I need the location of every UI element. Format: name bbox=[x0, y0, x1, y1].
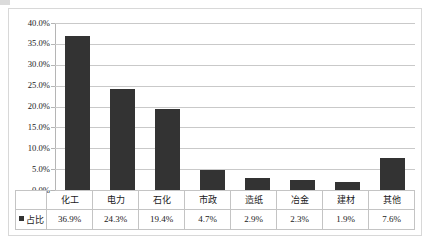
y-axis-tick bbox=[51, 86, 55, 87]
y-axis-tick bbox=[51, 65, 55, 66]
table-row-values: 占比 36.9%24.3%19.4%4.7%2.9%2.3%1.9%7.6% bbox=[16, 210, 415, 230]
y-axis-tick bbox=[51, 169, 55, 170]
y-axis-tick-label: 25.0% bbox=[4, 81, 50, 90]
value-cell: 19.4% bbox=[139, 210, 185, 230]
table-row-categories: 化工电力石化市政造纸冶金建材其他 bbox=[16, 191, 415, 210]
y-axis-tick-label: 35.0% bbox=[4, 39, 50, 48]
y-axis-tick-label: 30.0% bbox=[4, 60, 50, 69]
value-cell: 7.6% bbox=[369, 210, 415, 230]
y-axis-tick-label: 5.0% bbox=[4, 165, 50, 174]
bar bbox=[155, 109, 180, 190]
bar-slot bbox=[100, 23, 145, 190]
y-axis-tick bbox=[51, 127, 55, 128]
data-table: 化工电力石化市政造纸冶金建材其他 占比 36.9%24.3%19.4%4.7%2… bbox=[15, 190, 415, 230]
bar bbox=[65, 36, 90, 190]
y-axis-labels: 0.0%5.0%10.0%15.0%20.0%25.0%30.0%35.0%40… bbox=[0, 23, 50, 190]
category-cell: 冶金 bbox=[277, 191, 323, 210]
bar bbox=[335, 182, 360, 190]
y-axis-tick bbox=[51, 107, 55, 108]
category-cell: 电力 bbox=[93, 191, 139, 210]
value-cell: 2.3% bbox=[277, 210, 323, 230]
legend-blank-cell bbox=[16, 191, 47, 210]
plot-area bbox=[55, 23, 415, 190]
y-axis-tick bbox=[51, 190, 55, 191]
bar bbox=[380, 158, 405, 190]
bar-slot bbox=[145, 23, 190, 190]
bar bbox=[110, 89, 135, 190]
bar-slot bbox=[325, 23, 370, 190]
y-axis-tick bbox=[51, 23, 55, 24]
value-cell: 4.7% bbox=[185, 210, 231, 230]
y-axis-tick-label: 15.0% bbox=[4, 123, 50, 132]
square-marker-icon bbox=[19, 216, 24, 221]
corner-artifact bbox=[0, 0, 10, 5]
category-cell: 其他 bbox=[369, 191, 415, 210]
bar bbox=[245, 178, 270, 190]
bar-slot bbox=[190, 23, 235, 190]
bar-slot bbox=[370, 23, 415, 190]
legend-series-label: 占比 bbox=[26, 211, 44, 229]
y-axis-tick bbox=[51, 148, 55, 149]
bar bbox=[200, 170, 225, 190]
category-cell: 造纸 bbox=[231, 191, 277, 210]
y-axis-tick bbox=[51, 44, 55, 45]
value-cell: 1.9% bbox=[323, 210, 369, 230]
y-axis-tick-label: 10.0% bbox=[4, 144, 50, 153]
category-cell: 石化 bbox=[139, 191, 185, 210]
bar-slot bbox=[235, 23, 280, 190]
bar bbox=[290, 180, 315, 190]
bar-slot bbox=[280, 23, 325, 190]
bar-slot bbox=[55, 23, 100, 190]
category-cell: 市政 bbox=[185, 191, 231, 210]
category-cell: 建材 bbox=[323, 191, 369, 210]
y-axis-tick-label: 40.0% bbox=[4, 19, 50, 28]
y-axis-tick-label: 20.0% bbox=[4, 102, 50, 111]
value-cell: 2.9% bbox=[231, 210, 277, 230]
legend-series-cell: 占比 bbox=[16, 210, 47, 230]
chart-container: 0.0%5.0%10.0%15.0%20.0%25.0%30.0%35.0%40… bbox=[0, 0, 431, 244]
value-cell: 36.9% bbox=[47, 210, 93, 230]
value-cell: 24.3% bbox=[93, 210, 139, 230]
category-cell: 化工 bbox=[47, 191, 93, 210]
